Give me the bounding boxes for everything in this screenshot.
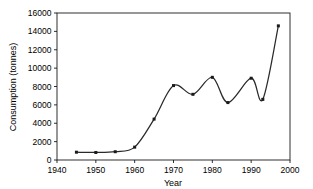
y-tick-label: 16000 xyxy=(28,8,52,18)
x-tick-label: 2000 xyxy=(281,165,300,175)
data-point xyxy=(250,77,253,80)
data-point xyxy=(94,151,97,154)
x-axis-tick-labels: 1940195019601970198019902000 xyxy=(48,165,300,175)
x-tick-label: 1940 xyxy=(48,165,67,175)
data-point xyxy=(277,24,280,27)
y-tick-label: 14000 xyxy=(28,26,52,36)
consumption-line-chart: 0200040006000800010000120001400016000 19… xyxy=(0,0,313,189)
y-tick-label: 0 xyxy=(47,155,52,165)
y-tick-label: 6000 xyxy=(33,100,52,110)
x-tick-label: 1960 xyxy=(125,165,144,175)
data-point xyxy=(153,118,156,121)
y-axis-tick-labels: 0200040006000800010000120001400016000 xyxy=(28,8,52,165)
y-tick-label: 12000 xyxy=(28,45,52,55)
x-axis-title: Year xyxy=(164,178,182,188)
x-tick-label: 1970 xyxy=(164,165,183,175)
y-tick-label: 2000 xyxy=(33,137,52,147)
data-point xyxy=(226,101,229,104)
data-point xyxy=(211,76,214,79)
data-point xyxy=(261,98,264,101)
data-point xyxy=(191,93,194,96)
x-tick-label: 1980 xyxy=(203,165,222,175)
data-point xyxy=(172,84,175,87)
data-point xyxy=(133,146,136,149)
x-tick-label: 1950 xyxy=(86,165,105,175)
consumption-curve xyxy=(76,26,278,153)
y-axis-title: Consumption (tonnes) xyxy=(8,43,18,132)
chart-container: 0200040006000800010000120001400016000 19… xyxy=(0,0,313,189)
data-point-markers xyxy=(75,24,280,154)
y-tick-label: 10000 xyxy=(28,63,52,73)
y-tick-label: 8000 xyxy=(33,82,52,92)
y-tick-label: 4000 xyxy=(33,118,52,128)
data-point xyxy=(75,151,78,154)
data-point xyxy=(114,150,117,153)
x-tick-label: 1990 xyxy=(242,165,261,175)
